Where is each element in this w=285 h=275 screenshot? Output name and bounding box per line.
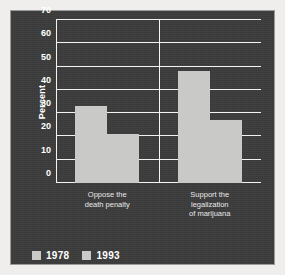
legend-swatch — [32, 251, 41, 260]
legend-label: 1993 — [96, 250, 119, 261]
bar — [75, 106, 107, 183]
y-axis-title: Percent — [37, 67, 47, 137]
bar — [210, 120, 242, 183]
bar — [178, 71, 210, 183]
chart-legend: 19781993 — [32, 250, 120, 261]
legend-label: 1978 — [46, 250, 69, 261]
y-axis-tick-label: 70 — [41, 5, 51, 15]
chart-figure: Percent 010203040506070 Oppose the death… — [0, 0, 285, 275]
legend-item: 1993 — [82, 250, 119, 261]
legend-swatch — [82, 251, 91, 260]
category-label: Oppose the death penalty — [61, 190, 153, 209]
legend-item: 1978 — [32, 250, 69, 261]
y-axis-tick-label: 50 — [41, 52, 51, 62]
category-label: Support the legalization of marijuana — [164, 190, 256, 219]
y-axis-tick-label: 10 — [41, 145, 51, 155]
plot-area: 010203040506070 Oppose the death penalty… — [56, 20, 261, 183]
chart-panel: Percent 010203040506070 Oppose the death… — [11, 11, 274, 264]
group-divider — [159, 20, 160, 183]
y-axis-tick-label: 60 — [41, 28, 51, 38]
y-axis-tick-label: 0 — [46, 168, 51, 178]
bar — [107, 134, 139, 183]
